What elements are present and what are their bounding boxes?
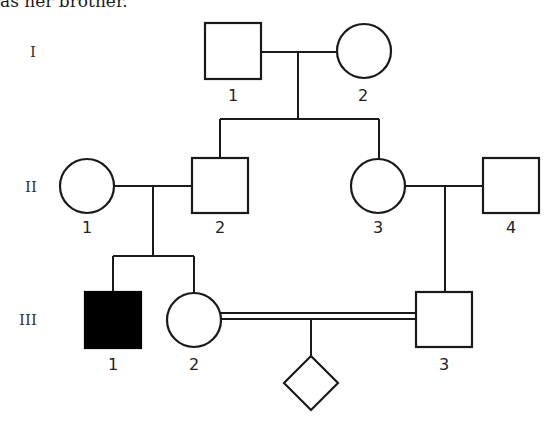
individual-label-II-4: 4 bbox=[506, 218, 516, 237]
individual-II-2[interactable] bbox=[192, 158, 248, 213]
individual-II-1[interactable] bbox=[60, 159, 114, 213]
generation-label-II: II bbox=[25, 178, 37, 196]
individual-label-I-1: 1 bbox=[228, 86, 238, 105]
individual-II-4[interactable] bbox=[483, 158, 539, 213]
individual-I-1[interactable] bbox=[205, 23, 261, 79]
individual-III-2[interactable] bbox=[167, 293, 221, 347]
individual-label-III-2: 2 bbox=[189, 355, 199, 374]
individual-label-II-2: 2 bbox=[215, 218, 225, 237]
generation-label-III: III bbox=[19, 311, 37, 329]
individual-IV-child-unknown-sex[interactable] bbox=[284, 356, 338, 410]
individual-II-3[interactable] bbox=[351, 159, 405, 213]
individual-label-III-1: 1 bbox=[108, 355, 118, 374]
individual-III-3[interactable] bbox=[416, 292, 472, 347]
individual-III-1-affected[interactable] bbox=[85, 292, 141, 348]
individual-label-II-1: 1 bbox=[82, 218, 92, 237]
generation-label-I: I bbox=[30, 43, 36, 61]
pedigree-chart: I II III 1 2 1 2 3 4 1 2 3 bbox=[0, 0, 551, 421]
individual-label-II-3: 3 bbox=[373, 218, 383, 237]
individual-I-2[interactable] bbox=[337, 24, 391, 78]
individual-label-III-3: 3 bbox=[439, 355, 449, 374]
individual-label-I-2: 2 bbox=[358, 86, 368, 105]
